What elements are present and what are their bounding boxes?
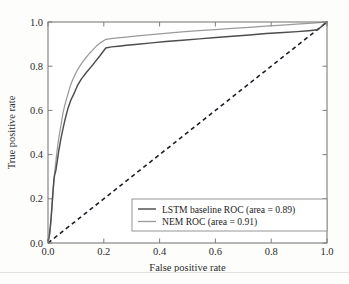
y-tick-label: 1.0 xyxy=(30,17,43,28)
y-tick-label: 0.4 xyxy=(30,149,44,160)
x-tick-labels: 0.0 0.2 0.4 0.6 0.8 1.0 xyxy=(41,246,333,257)
legend-label-nem: NEM ROC (area = 0.91) xyxy=(162,216,257,228)
y-tick-labels: 0.0 0.2 0.4 0.6 0.8 1.0 xyxy=(30,17,44,249)
y-tick-label: 0.6 xyxy=(30,105,43,116)
roc-figure: 0.0 0.2 0.4 0.6 0.8 1.0 0.0 0.2 0.4 0.6 … xyxy=(0,0,349,284)
x-tick-label: 1.0 xyxy=(320,246,333,257)
y-axis-title: True positive rate xyxy=(6,95,17,169)
legend-item-lstm[interactable]: LSTM baseline ROC (area = 0.89) xyxy=(138,204,295,216)
x-tick-label: 0.8 xyxy=(265,246,278,257)
y-tick-label: 0.0 xyxy=(30,238,43,249)
legend-label-lstm: LSTM baseline ROC (area = 0.89) xyxy=(162,204,295,216)
chart-legend[interactable]: LSTM baseline ROC (area = 0.89) NEM ROC … xyxy=(132,199,327,231)
x-tick-label: 0.4 xyxy=(153,246,167,257)
x-tick-label: 0.0 xyxy=(41,246,54,257)
scan-artifact-line xyxy=(0,272,349,273)
roc-chart-svg: 0.0 0.2 0.4 0.6 0.8 1.0 0.0 0.2 0.4 0.6 … xyxy=(0,0,349,284)
x-tick-label: 0.6 xyxy=(209,246,222,257)
y-tick-label: 0.8 xyxy=(30,61,43,72)
x-tick-label: 0.2 xyxy=(97,246,110,257)
y-tick-label: 0.2 xyxy=(30,193,43,204)
